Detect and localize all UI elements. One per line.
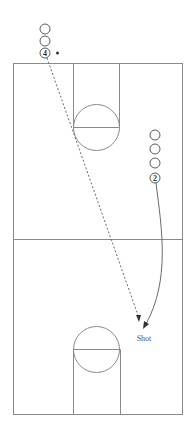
player-circle[interactable]: [150, 144, 160, 154]
player-circle[interactable]: [40, 24, 50, 34]
shot-label: Shot: [137, 334, 152, 343]
player-2-label: 2: [153, 174, 157, 183]
cut-arrow-head: [143, 321, 149, 329]
player-circle[interactable]: [40, 36, 50, 46]
pass-arrow-head: [136, 315, 141, 322]
player-circle[interactable]: [150, 158, 160, 168]
player-line-2: 2: [150, 130, 160, 183]
pass-path: [47, 58, 139, 318]
ball-marker-icon: [56, 52, 59, 55]
player-circle[interactable]: [150, 130, 160, 140]
player-4-label: 4: [43, 49, 47, 58]
cut-path: [146, 183, 162, 324]
court: [14, 64, 183, 415]
player-line-4: 4: [40, 24, 59, 58]
drill-diagram: 4 2 Shot: [0, 0, 191, 434]
movement-paths: [47, 58, 162, 329]
